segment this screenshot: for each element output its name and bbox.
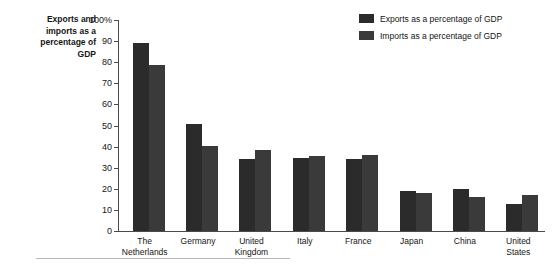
- y-axis-tick-label: 20: [102, 184, 112, 193]
- y-axis-tick-label: 60: [102, 100, 112, 109]
- y-axis-tick-mark: [114, 147, 118, 148]
- bar-exports: [293, 158, 309, 231]
- y-axis-tick-label: 40: [102, 142, 112, 151]
- bar-exports: [239, 159, 255, 231]
- bar-exports: [186, 124, 202, 231]
- chart-axis-title: Exports andimports as apercentage ofGDP: [4, 14, 96, 60]
- category-label-line: Netherlands: [112, 247, 177, 258]
- y-axis-tick-mark: [114, 41, 118, 42]
- bar-imports: [149, 65, 165, 231]
- bar-group: [186, 20, 218, 231]
- bar-imports: [202, 146, 218, 231]
- y-axis-tick-mark: [114, 126, 118, 127]
- bar-exports: [346, 159, 362, 231]
- footer-divider: [36, 258, 290, 259]
- bar-imports: [469, 197, 485, 231]
- axis-title-line: percentage of: [4, 37, 96, 49]
- bar-group: [453, 20, 485, 231]
- bar-group: [400, 20, 432, 231]
- y-axis-tick-label: 80: [102, 58, 112, 67]
- bar-imports: [522, 195, 538, 231]
- y-axis-tick-label: 10: [102, 205, 112, 214]
- y-axis-tick-mark: [114, 231, 118, 232]
- bar-imports: [255, 150, 271, 231]
- bar-exports: [453, 189, 469, 231]
- y-axis-tick-label: 30: [102, 163, 112, 172]
- axis-title-line: GDP: [4, 49, 96, 61]
- bar-exports: [400, 191, 416, 231]
- bar-imports: [416, 193, 432, 231]
- chart-plot-area: 0102030405060708090100%: [118, 20, 545, 232]
- bar-group: [293, 20, 325, 231]
- bar-exports: [506, 204, 522, 231]
- y-axis-tick-label: 70: [102, 79, 112, 88]
- bar-imports: [362, 155, 378, 231]
- x-axis-line: [118, 231, 545, 232]
- y-axis-tick-mark: [114, 189, 118, 190]
- y-axis-tick-mark: [114, 210, 118, 211]
- category-label-line: Kingdom: [219, 247, 284, 258]
- category-label-line: United: [486, 236, 551, 247]
- y-axis-tick-mark: [114, 168, 118, 169]
- y-axis-tick-mark: [114, 20, 118, 21]
- bar-group: [239, 20, 271, 231]
- y-axis-tick-label: 50: [102, 121, 112, 130]
- y-axis-tick-label: 90: [102, 37, 112, 46]
- bar-group: [506, 20, 538, 231]
- category-label: UnitedStates: [486, 236, 551, 258]
- y-axis-tick-mark: [114, 104, 118, 105]
- y-axis-tick-mark: [114, 62, 118, 63]
- y-axis-line: [118, 20, 119, 232]
- y-axis-tick-mark: [114, 83, 118, 84]
- y-axis-tick-label: 0: [107, 227, 112, 236]
- bar-imports: [309, 156, 325, 231]
- axis-title-line: imports as a: [4, 26, 96, 38]
- y-axis-tick-label: 100%: [89, 16, 112, 25]
- category-label-line: States: [486, 247, 551, 258]
- bar-group: [133, 20, 165, 231]
- bar-exports: [133, 43, 149, 231]
- axis-title-line: Exports and: [4, 14, 96, 26]
- bar-group: [346, 20, 378, 231]
